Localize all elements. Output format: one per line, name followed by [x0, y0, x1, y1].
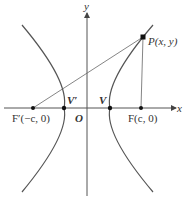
point-p-marker [141, 35, 146, 40]
hyperbola-diagram: y x O F′(−c, 0) V′ V F(c, 0) P(x, y) [0, 0, 183, 205]
focal-radius-right [141, 37, 143, 108]
vertex-left-label: V′ [67, 94, 77, 106]
vertex-right-label: V [99, 94, 108, 106]
y-axis-label: y [83, 0, 89, 12]
focus-right-point [139, 106, 143, 110]
origin-label: O [75, 112, 83, 124]
focus-left-point [31, 106, 35, 110]
point-p-label: P(x, y) [147, 35, 178, 48]
focus-right-label: F(c, 0) [128, 112, 158, 125]
focus-left-label: F′(−c, 0) [12, 112, 50, 125]
vertex-right-point [108, 106, 112, 110]
focal-radius-left [33, 37, 143, 108]
vertex-left-point [62, 106, 66, 110]
x-axis-label: x [176, 102, 182, 114]
